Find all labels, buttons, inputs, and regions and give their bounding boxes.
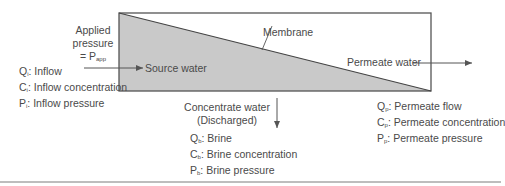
permeate-q: Qp: Permeate flow: [377, 100, 505, 116]
permeate-legend: Qp: Permeate flow Cp: Permeate concentra…: [377, 100, 505, 148]
applied-pressure-line2: pressure: [72, 37, 114, 50]
brine-q: Qb: Brine: [190, 132, 297, 148]
applied-pressure-label: Applied pressure = Papp: [72, 24, 114, 66]
concentrate-label: Concentrate water (Discharged): [182, 101, 272, 127]
permeate-p: Pp: Permeate pressure: [377, 132, 505, 148]
inflow-p: Pi: Inflow pressure: [19, 97, 127, 113]
inflow-c: Ci: Inflow concentration: [19, 81, 127, 97]
membrane-label: Membrane: [263, 26, 313, 39]
applied-pressure-line1: Applied: [72, 24, 114, 37]
inflow-q: Qi: Inflow: [19, 65, 127, 81]
brine-legend: Qb: Brine Cb: Brine concentration Pb: Br…: [190, 132, 297, 180]
applied-pressure-eq: = Papp: [72, 50, 114, 66]
brine-c: Cb: Brine concentration: [190, 148, 297, 164]
concentrate-line1: Concentrate water: [182, 101, 272, 114]
bottom-divider: [0, 181, 501, 183]
source-water-label: Source water: [145, 62, 207, 75]
permeate-c: Cp: Permeate concentration: [377, 116, 505, 132]
concentrate-line2: (Discharged): [182, 114, 272, 127]
permeate-water-label: Permeate water: [347, 56, 421, 69]
brine-p: Pb: Brine pressure: [190, 164, 297, 180]
inflow-legend: Qi: Inflow Ci: Inflow concentration Pi: …: [19, 65, 127, 113]
